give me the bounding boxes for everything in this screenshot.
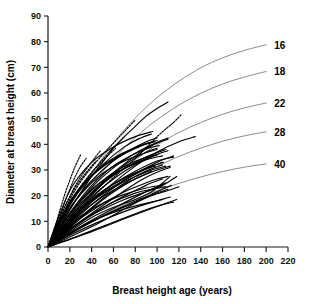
y-axis-title: Diameter at breast height (cm) <box>5 60 16 204</box>
x-tick-label-40: 40 <box>87 256 97 266</box>
x-tick-label-220: 220 <box>280 256 295 266</box>
observed-tree-curve-group <box>48 102 195 247</box>
x-tick-label-60: 60 <box>108 256 118 266</box>
curve-label-16: 16 <box>274 40 286 51</box>
x-tick-label-100: 100 <box>150 256 165 266</box>
curve-label-22: 22 <box>274 98 286 109</box>
y-tick-label-60: 60 <box>31 88 41 98</box>
x-tick-label-20: 20 <box>65 256 75 266</box>
chart-figure: 0102030405060708090 02040608010012014016… <box>0 0 310 304</box>
y-tick-label-90: 90 <box>31 11 41 21</box>
y-tick-label-50: 50 <box>31 114 41 124</box>
chart-plot-svg: 0102030405060708090 02040608010012014016… <box>0 0 310 304</box>
y-tick-label-70: 70 <box>31 63 41 73</box>
x-tick-label-80: 80 <box>130 256 140 266</box>
y-tick-label-0: 0 <box>36 242 41 252</box>
curve-label-28: 28 <box>274 127 286 138</box>
x-tick-label-0: 0 <box>45 256 50 266</box>
x-tick-label-160: 160 <box>215 256 230 266</box>
y-axis-ticks: 0102030405060708090 <box>31 11 48 252</box>
x-axis-ticks: 020406080100120140160180200220 <box>45 247 295 266</box>
x-axis-title: Breast height age (years) <box>112 285 232 296</box>
y-tick-label-80: 80 <box>31 37 41 47</box>
curve-label-group: 1618222840 <box>274 40 286 170</box>
y-tick-label-20: 20 <box>31 191 41 201</box>
x-tick-label-180: 180 <box>237 256 252 266</box>
y-tick-label-40: 40 <box>31 140 41 150</box>
y-tick-label-30: 30 <box>31 165 41 175</box>
x-tick-label-120: 120 <box>171 256 186 266</box>
x-tick-label-200: 200 <box>259 256 274 266</box>
x-tick-label-140: 140 <box>193 256 208 266</box>
curve-label-40: 40 <box>274 159 286 170</box>
curve-label-18: 18 <box>274 66 286 77</box>
y-tick-label-10: 10 <box>31 217 41 227</box>
axes-group <box>48 16 288 247</box>
